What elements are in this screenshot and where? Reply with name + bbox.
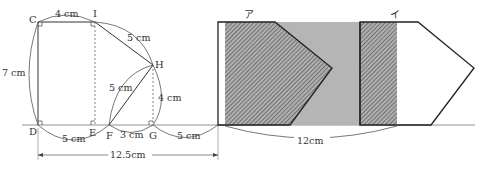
measure-g-shape: 5 cm bbox=[177, 130, 200, 141]
shape-i-hatched bbox=[360, 22, 397, 125]
measure-cd: 7 cm bbox=[2, 67, 25, 78]
point-f-label: F bbox=[106, 130, 113, 141]
point-h-label: H bbox=[155, 59, 164, 70]
measure-hg: 4 cm bbox=[158, 92, 181, 103]
shape-i-label: イ bbox=[390, 9, 400, 20]
measure-df: 5 cm bbox=[62, 133, 85, 144]
sliding-shapes bbox=[218, 22, 474, 146]
measure-slide: 12cm bbox=[297, 135, 323, 146]
measure-ci: 4 cm bbox=[55, 8, 78, 19]
point-c-label: C bbox=[29, 14, 37, 25]
diagram-canvas: C I H D E F G 4 cm 5 cm 7 cm 5 cm 4 cm 5… bbox=[0, 0, 492, 171]
point-e-label: E bbox=[89, 127, 96, 138]
geometry-diagram: C I H D E F G 4 cm 5 cm 7 cm 5 cm 4 cm 5… bbox=[0, 0, 492, 171]
point-d-label: D bbox=[29, 126, 37, 137]
measure-fg: 3 cm bbox=[120, 129, 143, 140]
shape-a-label: ア bbox=[244, 9, 254, 20]
measure-total: 12.5cm bbox=[110, 149, 145, 160]
point-g-label: G bbox=[149, 130, 157, 141]
measure-ih: 5 cm bbox=[127, 32, 150, 43]
measure-fh: 5 cm bbox=[109, 82, 132, 93]
point-i-label: I bbox=[93, 8, 97, 19]
